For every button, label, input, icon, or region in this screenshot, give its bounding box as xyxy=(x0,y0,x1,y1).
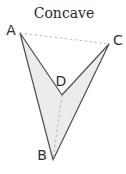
figure-title: Concave xyxy=(34,5,95,21)
vertex-label-A: A xyxy=(6,22,16,38)
polygon-layer xyxy=(20,33,109,160)
concave-figure: ABCD Concave xyxy=(0,0,126,174)
vertex-label-B: B xyxy=(37,147,47,163)
dashed-diagonal-AC xyxy=(20,33,109,44)
concave-polygon xyxy=(20,33,109,160)
vertex-label-C: C xyxy=(113,32,123,48)
vertex-label-D: D xyxy=(56,73,67,89)
figure-canvas: ABCD Concave xyxy=(0,0,126,174)
